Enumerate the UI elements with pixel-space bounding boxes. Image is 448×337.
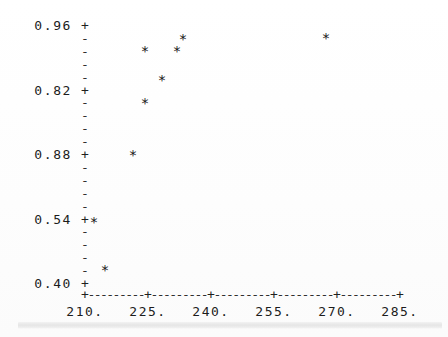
data-point-marker: *: [179, 32, 187, 46]
ascii-scatter-plot: 0.960.820.880.540.40 +----+----+----+---…: [0, 0, 448, 337]
x-axis-tick-label: 210.: [66, 304, 103, 319]
y-axis-tick-label: 0.88: [34, 147, 72, 162]
x-axis-tick-label: 225.: [129, 304, 166, 319]
data-point-marker: *: [90, 215, 98, 229]
data-point-marker: *: [141, 44, 149, 58]
data-point-marker: *: [101, 263, 109, 277]
y-axis-tick-label: 0.54: [34, 211, 72, 226]
data-point-marker: *: [141, 96, 149, 110]
x-axis-tick-label: 255.: [255, 304, 292, 319]
data-point-marker: *: [129, 148, 137, 162]
data-point-marker: *: [322, 31, 330, 45]
scan-edge-band: [18, 322, 442, 329]
y-axis-tick-label: 0.82: [34, 82, 72, 97]
y-axis-tick-label: 0.40: [34, 276, 72, 291]
y-axis-tick-label: 0.96: [34, 18, 72, 33]
x-axis-tick-label: 270.: [318, 304, 355, 319]
x-axis-tick-label: 285.: [381, 304, 418, 319]
x-axis-tick-label: 240.: [192, 304, 229, 319]
data-point-marker: *: [158, 73, 166, 87]
x-axis-major-tick: +: [396, 288, 404, 301]
